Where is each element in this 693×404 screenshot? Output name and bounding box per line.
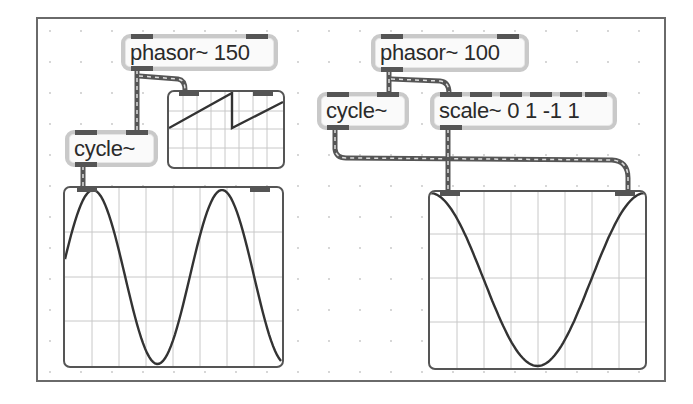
- object-text: cycle~: [326, 98, 387, 123]
- outlet[interactable]: [440, 125, 462, 130]
- outlet[interactable]: [381, 67, 403, 72]
- object-phasor-150[interactable]: phasor~ 150: [121, 34, 278, 71]
- inlet-left[interactable]: [75, 130, 97, 135]
- object-scale[interactable]: scale~ 0 1 -1 1: [430, 92, 617, 130]
- scope-inlet-left[interactable]: [77, 188, 97, 192]
- outlet[interactable]: [131, 66, 153, 71]
- scope-sawtooth[interactable]: [167, 90, 285, 169]
- scope-inlet-right[interactable]: [253, 92, 273, 96]
- scope-inlet-left[interactable]: [179, 92, 199, 96]
- object-phasor-100[interactable]: phasor~ 100: [371, 34, 529, 72]
- object-text: cycle~: [74, 136, 135, 161]
- inlet-4[interactable]: [530, 92, 552, 97]
- scope-inlet-right[interactable]: [615, 192, 635, 196]
- outlet[interactable]: [75, 162, 97, 167]
- inlet-right[interactable]: [377, 92, 399, 97]
- inlet-1[interactable]: [440, 92, 462, 97]
- inlet-left[interactable]: [327, 92, 349, 97]
- scope-sine[interactable]: [63, 186, 284, 368]
- inlet-right[interactable]: [497, 34, 519, 39]
- inlet-left[interactable]: [381, 34, 403, 39]
- object-text: phasor~ 150: [130, 40, 250, 65]
- object-text: scale~ 0 1 -1 1: [439, 98, 579, 123]
- sawtooth-trace: [169, 92, 283, 167]
- xy-trace: [430, 192, 645, 368]
- inlet-right[interactable]: [246, 34, 268, 39]
- scope-inlet-left[interactable]: [440, 192, 460, 196]
- inlet-3[interactable]: [500, 92, 522, 97]
- inlet-5[interactable]: [560, 92, 582, 97]
- inlet-6[interactable]: [585, 92, 607, 97]
- scope-xy[interactable]: [428, 190, 647, 370]
- scope-inlet-right[interactable]: [250, 188, 270, 192]
- inlet-2[interactable]: [470, 92, 492, 97]
- object-cycle-right[interactable]: cycle~: [317, 92, 409, 130]
- inlet-right[interactable]: [126, 130, 148, 135]
- outlet[interactable]: [327, 125, 349, 130]
- object-cycle-left[interactable]: cycle~: [65, 130, 158, 167]
- object-text: phasor~ 100: [380, 40, 500, 65]
- inlet-left[interactable]: [131, 34, 153, 39]
- sine-trace: [65, 188, 282, 366]
